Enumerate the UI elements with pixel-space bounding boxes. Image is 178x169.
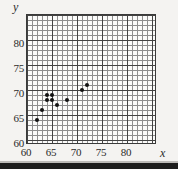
x-tick-label: 65 [38,146,64,158]
x-tick-label: 80 [113,146,139,158]
y-tick-label: 65 [0,112,24,124]
data-point [50,98,54,102]
plot-area [26,14,156,144]
data-point [65,98,69,102]
y-tick-label: 75 [0,62,24,74]
x-tick-label: 60 [13,146,39,158]
page-bottom-band [0,163,178,169]
data-point [85,83,89,87]
y-tick-label: 70 [0,87,24,99]
data-points-layer [27,15,155,143]
data-point [80,88,84,92]
data-point [35,118,39,122]
data-point [45,93,49,97]
x-tick-label: 75 [88,146,114,158]
data-point [45,98,49,102]
x-tick-label: 70 [63,146,89,158]
data-point [40,108,44,112]
y-tick-label: 80 [0,37,24,49]
x-axis-label: x [160,146,165,161]
scatter-plot-figure: 6065707580 6065707580 y x [0,0,178,169]
y-axis-label: y [13,0,18,15]
data-point [50,93,54,97]
data-point [55,103,59,107]
